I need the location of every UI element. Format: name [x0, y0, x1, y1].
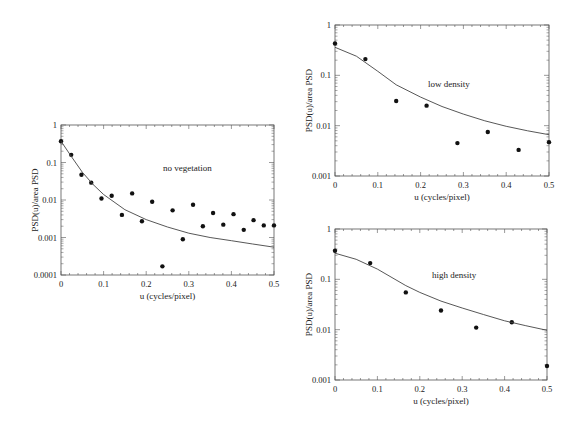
x-tick-label: 0 [59, 279, 63, 289]
data-point [404, 290, 408, 294]
data-point [474, 325, 478, 329]
data-point [242, 228, 246, 232]
data-point [424, 103, 428, 107]
data-point [516, 148, 520, 152]
data-point [394, 99, 398, 103]
y-tick-label: 1 [53, 120, 57, 130]
chart-low-density: 00.10.20.30.40.510.10.010.001u (cycles/p… [304, 20, 554, 202]
data-point [545, 364, 549, 368]
data-point [191, 202, 195, 206]
y-tick-label: 0.01 [42, 195, 57, 205]
y-tick-label: 0.1 [320, 274, 331, 284]
data-point [109, 194, 113, 198]
x-tick-label: 0.2 [414, 384, 425, 394]
y-tick-label: 0.1 [46, 158, 57, 168]
figure-canvas: 00.10.20.30.40.510.10.010.0010.0001u (cy… [0, 0, 582, 430]
x-tick-label: 0.2 [415, 180, 426, 190]
x-tick-label: 0.3 [183, 279, 194, 289]
x-tick-label: 0.4 [501, 180, 512, 190]
y-axis-title: PSD(u)/area PSD [304, 272, 314, 336]
data-point [99, 196, 103, 200]
x-tick-label: 0.4 [226, 279, 237, 289]
data-point [547, 140, 551, 144]
data-point [231, 212, 235, 216]
y-axis-title: PSD(u)/area PSD [30, 168, 40, 232]
chart-no-vegetation: 00.10.20.30.40.510.10.010.0010.0001u (cy… [30, 120, 279, 301]
chart-annotation: high density [432, 270, 477, 280]
data-point [130, 191, 134, 195]
data-point [211, 211, 215, 215]
model-curve [61, 141, 274, 247]
data-point [160, 264, 164, 268]
data-point [251, 218, 255, 222]
x-tick-label: 0 [333, 180, 337, 190]
x-tick-label: 0.3 [458, 180, 469, 190]
x-axis-title: u (cycles/pixel) [413, 396, 469, 406]
data-point [140, 219, 144, 223]
data-point [150, 200, 154, 204]
y-tick-label: 0.01 [316, 325, 331, 335]
data-point [201, 224, 205, 228]
x-axis-title: u (cycles/pixel) [140, 291, 196, 301]
plot-frame [335, 229, 547, 380]
chart-annotation: low density [428, 79, 470, 89]
x-tick-label: 0.4 [499, 384, 510, 394]
data-point [170, 208, 174, 212]
data-point [272, 223, 276, 227]
x-tick-label: 0.2 [141, 279, 152, 289]
data-point [120, 213, 124, 217]
y-tick-label: 1 [327, 224, 331, 234]
data-point [439, 308, 443, 312]
y-tick-label: 0.001 [312, 375, 331, 385]
data-point [333, 41, 337, 45]
x-tick-label: 0.5 [542, 384, 553, 394]
x-tick-label: 0.5 [544, 180, 555, 190]
data-point [363, 57, 367, 61]
plot-frame [61, 125, 274, 275]
x-tick-label: 0.5 [269, 279, 280, 289]
y-tick-label: 0.001 [38, 233, 57, 243]
y-tick-label: 0.0001 [34, 270, 57, 280]
x-tick-label: 0.1 [372, 384, 383, 394]
data-point [181, 237, 185, 241]
x-tick-label: 0 [333, 384, 337, 394]
x-tick-label: 0.1 [372, 180, 383, 190]
data-point [221, 222, 225, 226]
chart-annotation: no vegetation [163, 163, 212, 173]
y-tick-label: 0.01 [316, 121, 331, 131]
plot-frame [335, 25, 549, 176]
data-point [262, 223, 266, 227]
chart-high-density: 00.10.20.30.40.510.10.010.001u (cycles/p… [304, 224, 552, 406]
y-tick-label: 1 [327, 20, 331, 30]
data-point [333, 249, 337, 253]
model-curve [335, 253, 547, 330]
data-point [455, 141, 459, 145]
y-axis-title: PSD(u)/area PSD [304, 68, 314, 132]
x-tick-label: 0.1 [98, 279, 109, 289]
y-tick-label: 0.1 [320, 70, 331, 80]
y-tick-label: 0.001 [312, 171, 331, 181]
data-point [486, 130, 490, 134]
x-axis-title: u (cycles/pixel) [414, 192, 470, 202]
x-tick-label: 0.3 [457, 384, 468, 394]
